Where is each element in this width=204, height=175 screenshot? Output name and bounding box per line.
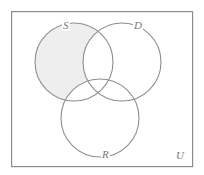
- set-label-r: R: [101, 149, 110, 160]
- set-label-d: D: [133, 20, 143, 31]
- set-label-s: S: [62, 20, 70, 31]
- venn-diagram-figure: S D R U: [0, 0, 204, 175]
- universal-set-label: U: [175, 150, 185, 161]
